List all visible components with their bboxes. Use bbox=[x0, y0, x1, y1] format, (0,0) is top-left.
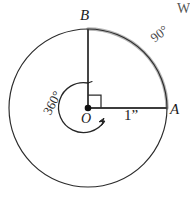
point-label-a: A bbox=[170, 102, 179, 117]
radius-measure-label: 1” bbox=[124, 108, 138, 123]
point-label-b: B bbox=[80, 8, 89, 23]
rotation-arrowhead-icon bbox=[99, 118, 105, 125]
center-label-o: O bbox=[81, 112, 91, 126]
cropped-word-label: W bbox=[177, 2, 190, 16]
circle-geometry-figure: B A O 1” 90° 360° W bbox=[0, 0, 190, 217]
